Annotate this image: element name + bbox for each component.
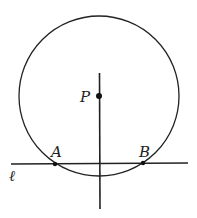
point-p bbox=[96, 93, 102, 99]
point-a bbox=[53, 162, 57, 166]
label-p: P bbox=[79, 88, 91, 106]
label-line-l: ℓ bbox=[9, 167, 15, 185]
point-b bbox=[141, 161, 145, 165]
label-b: B bbox=[138, 143, 150, 161]
label-a: A bbox=[49, 143, 62, 161]
geometry-diagram: P A B ℓ bbox=[0, 0, 197, 218]
